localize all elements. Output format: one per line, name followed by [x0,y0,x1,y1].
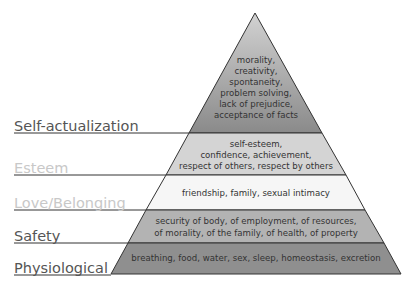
band-safety [128,210,384,243]
label-physiological: Physiological [14,260,108,276]
level-labels: Self-actualization Esteem Love/Belonging… [14,118,139,276]
band-text-line: morality, [237,55,275,65]
band-text-line: of morality, of the family, of health, o… [154,228,357,238]
band-text-line: creativity, [234,66,277,76]
band-text-line: friendship, family, sexual intimacy [182,188,330,198]
band-text-line: problem solving, [220,88,292,98]
label-safety: Safety [14,228,61,244]
band-text-line: acceptance of facts [214,110,299,120]
band-text-line: spontaneity, [229,77,283,87]
band-text-love-belonging: friendship, family, sexual intimacy [182,188,330,198]
band-text-line: respect of others, respect by others [179,161,333,171]
band-text-line: self-esteem, [230,139,283,149]
band-text-line: lack of prejudice, [219,99,293,109]
label-self-actualization: Self-actualization [14,118,139,134]
band-text-line: confidence, achievement, [200,150,311,160]
maslow-pyramid-diagram: morality, creativity, spontaneity, probl… [0,0,413,288]
band-text-physiological: breathing, food, water, sex, sleep, home… [131,253,380,263]
band-text-line: breathing, food, water, sex, sleep, home… [131,253,380,263]
label-esteem: Esteem [14,160,68,176]
band-text-line: security of body, of employment, of reso… [156,216,357,226]
label-love-belonging: Love/Belonging [14,195,126,211]
